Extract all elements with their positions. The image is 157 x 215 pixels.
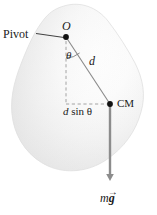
moment-arm-label: d sin θ: [63, 106, 92, 117]
pivot-point-label: O: [62, 20, 71, 32]
pivot-label: Pivot: [3, 28, 28, 40]
vector-arrow-icon: →: [108, 187, 118, 197]
distance-d-label: d: [89, 55, 95, 67]
physics-figure: Pivot O θ d d sin θ CM m→g: [0, 0, 157, 215]
moment-arm-d: d: [63, 105, 69, 117]
rigid-body-shape: [12, 4, 144, 171]
center-of-mass-dot: [107, 101, 113, 107]
pivot-point-dot: [63, 34, 69, 40]
force-gravity-vector-symbol: →g: [109, 192, 116, 204]
moment-arm-sin-theta: sin θ: [71, 105, 92, 117]
gravity-force-label: m→g: [100, 192, 116, 204]
rigid-body-shading: [12, 4, 144, 171]
center-of-mass-label: CM: [117, 98, 134, 109]
angle-theta-label: θ: [66, 50, 71, 61]
